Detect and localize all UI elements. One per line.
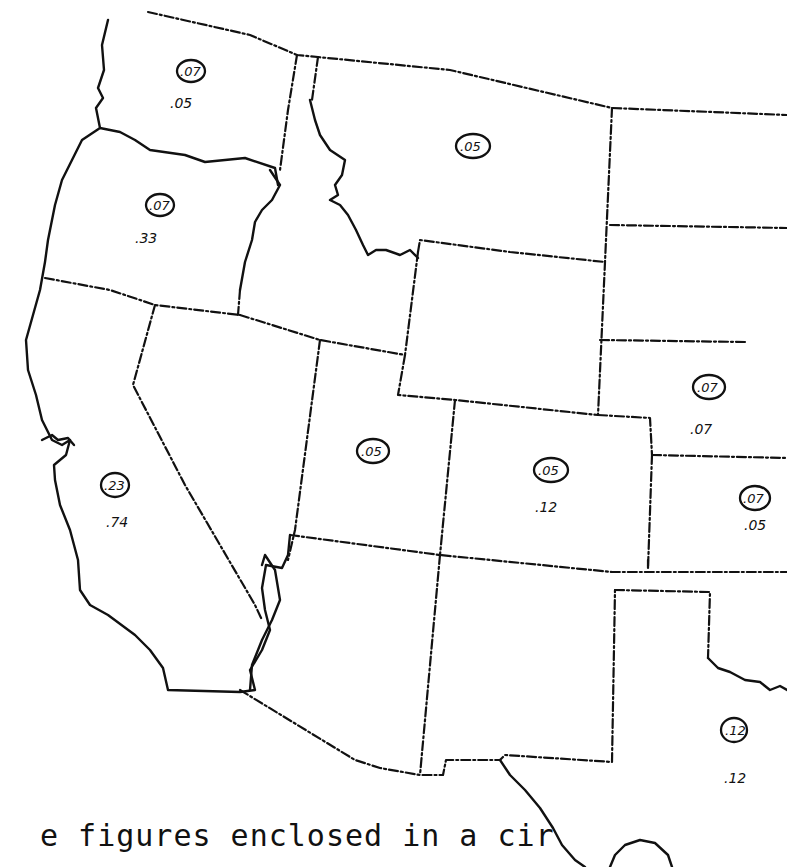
co-ks-border <box>648 455 652 568</box>
ut-co-border <box>440 400 455 555</box>
ne-co-border <box>598 415 652 455</box>
az-nm-border <box>420 555 440 775</box>
tx-circled-value: .12 <box>725 723 746 738</box>
id-mt-top-border <box>312 57 318 100</box>
ne-ks-border <box>652 455 787 458</box>
red-river <box>708 658 787 690</box>
sd-ne-border <box>600 340 745 342</box>
ca-nv-border <box>133 305 262 620</box>
nd-sd-border <box>610 225 787 228</box>
co-circled-value: .05 <box>538 463 559 478</box>
or-ca-nv-border <box>45 278 240 315</box>
or-plain-value: .33 <box>135 230 157 246</box>
western-us-map: .07 .05 .07 .33 .05 .23 .74 .05 .05 .12 … <box>0 0 787 867</box>
mexico-curve <box>610 840 672 867</box>
pacific-coastline <box>26 20 290 692</box>
wa-circled-value: .07 <box>180 64 201 79</box>
wa-id-border <box>280 55 297 170</box>
ca-plain-value: .74 <box>106 514 128 530</box>
ne-circled-value: .07 <box>697 380 718 395</box>
ne-plain-value: .07 <box>690 421 712 437</box>
or-id-lower-border <box>238 290 240 315</box>
canada-border <box>148 12 787 115</box>
or-circled-value: .07 <box>149 198 170 213</box>
idaho-montana-border <box>310 100 418 258</box>
wy-ut-border <box>398 355 598 415</box>
wy-west-border <box>405 252 418 355</box>
nv-ut-border <box>288 340 320 560</box>
tx-plain-value: .12 <box>724 770 746 786</box>
wa-plain-value: .05 <box>170 95 192 111</box>
mt-wy-border <box>418 240 605 262</box>
map-caption: e figures enclosed in a cir <box>40 818 555 853</box>
ok-panhandle-border <box>615 590 710 658</box>
ut-circled-value: .05 <box>361 444 382 459</box>
idaho-oregon-border <box>240 170 280 290</box>
ks-plain-value: .05 <box>744 517 766 533</box>
ks-circled-value: .07 <box>743 491 764 506</box>
ut-az-nm-border <box>290 535 787 572</box>
ca-circled-value: .23 <box>104 478 125 493</box>
id-nevada-utah-border <box>240 315 405 355</box>
co-plain-value: .12 <box>535 499 557 515</box>
mt-circled-value: .05 <box>460 139 481 154</box>
